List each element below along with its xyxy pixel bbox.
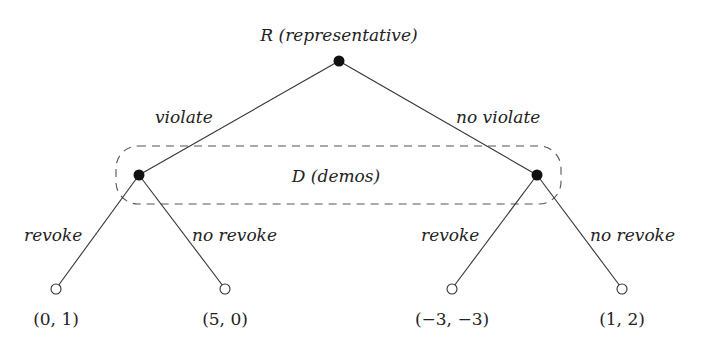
payoff-label: (0, 1) bbox=[33, 309, 79, 329]
information-set-label: D (demos) bbox=[291, 166, 380, 186]
edge-label-violate: violate bbox=[155, 107, 213, 127]
edge-label-no-revoke-right: no revoke bbox=[590, 225, 675, 245]
decision-node-right bbox=[532, 170, 543, 181]
terminal-node bbox=[51, 284, 61, 294]
payoff-label: (−3, −3) bbox=[415, 309, 489, 329]
payoff-label: (1, 2) bbox=[599, 309, 645, 329]
edge-label-no-violate: no violate bbox=[456, 107, 540, 127]
edge-label-no-revoke-left: no revoke bbox=[192, 225, 277, 245]
terminal-node bbox=[220, 284, 230, 294]
root-node bbox=[334, 56, 345, 67]
root-label: R (representative) bbox=[259, 25, 417, 45]
game-tree: R (representative) D (demos) violate no … bbox=[0, 0, 707, 352]
edge-label-revoke-left: revoke bbox=[24, 225, 82, 245]
payoff-label: (5, 0) bbox=[202, 309, 248, 329]
decision-node-left bbox=[134, 170, 145, 181]
edge-label-revoke-right: revoke bbox=[421, 225, 479, 245]
terminal-node bbox=[617, 284, 627, 294]
terminal-node bbox=[447, 284, 457, 294]
